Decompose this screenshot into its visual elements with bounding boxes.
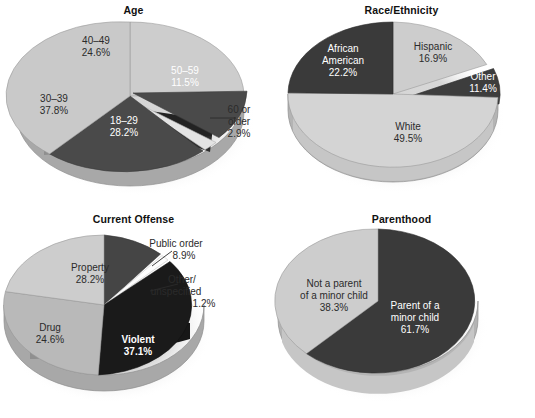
- svg-text:minor child: minor child: [391, 312, 439, 323]
- svg-text:30–39: 30–39: [40, 93, 68, 104]
- svg-text:1.2%: 1.2%: [193, 298, 216, 309]
- svg-text:8.9%: 8.9%: [173, 250, 196, 261]
- pie-chart-current-offense: Property 28.2% Drug 24.6% Violent 37.1% …: [0, 209, 267, 418]
- svg-text:28.2%: 28.2%: [76, 274, 104, 285]
- pie-label-offense-drug: Drug 24.6%: [36, 322, 64, 345]
- pie-label-offense-violent: Violent 37.1%: [121, 334, 155, 357]
- svg-text:Violent: Violent: [121, 334, 155, 345]
- pie-chart-age: 40–49 24.6% 50–59 11.5% 30–39 37.8% 18–2…: [0, 0, 267, 209]
- pie-label-race-white: White 49.5%: [394, 121, 422, 144]
- pie-label-offense-public-order: Public order 8.9%: [149, 238, 203, 261]
- svg-text:11.5%: 11.5%: [171, 77, 199, 88]
- svg-text:Public order: Public order: [149, 238, 203, 249]
- svg-text:of a minor child: of a minor child: [300, 290, 368, 301]
- svg-text:White: White: [395, 121, 421, 132]
- svg-text:Not a parent: Not a parent: [306, 278, 361, 289]
- svg-text:50–59: 50–59: [171, 65, 199, 76]
- svg-text:American: American: [322, 55, 364, 66]
- svg-text:11.4%: 11.4%: [469, 83, 497, 94]
- svg-text:49.5%: 49.5%: [394, 133, 422, 144]
- svg-text:2.9%: 2.9%: [228, 128, 251, 139]
- svg-text:60 or: 60 or: [228, 104, 251, 115]
- svg-text:Other/: Other/: [168, 274, 196, 285]
- svg-text:40–49: 40–49: [82, 35, 110, 46]
- svg-text:unspecified: unspecified: [151, 286, 202, 297]
- pie-chart-race-ethnicity: African American 22.2% Hispanic 16.9% Ot…: [268, 0, 535, 209]
- svg-text:18–29: 18–29: [110, 115, 138, 126]
- pie-label-race-hispanic: Hispanic 16.9%: [414, 41, 452, 64]
- svg-text:24.6%: 24.6%: [82, 47, 110, 58]
- svg-text:37.8%: 37.8%: [40, 105, 68, 116]
- svg-text:older: older: [228, 116, 251, 127]
- svg-text:61.7%: 61.7%: [401, 324, 429, 335]
- pie-label-race-other: Other 11.4%: [469, 71, 497, 94]
- svg-text:Parent of a: Parent of a: [391, 300, 440, 311]
- svg-text:37.1%: 37.1%: [124, 346, 152, 357]
- pie-label-age-60-or-older: 60 or older 2.9%: [228, 104, 251, 139]
- pie-chart-figure: Age: [0, 0, 535, 418]
- pie-label-age-40-49: 40–49 24.6%: [82, 35, 111, 58]
- svg-text:28.2%: 28.2%: [110, 127, 138, 138]
- svg-text:24.6%: 24.6%: [36, 334, 64, 345]
- pie-label-age-30-39: 30–39 37.8%: [40, 93, 69, 116]
- svg-text:Property: Property: [71, 262, 109, 273]
- svg-text:Other: Other: [470, 71, 496, 82]
- svg-text:Hispanic: Hispanic: [414, 41, 452, 52]
- svg-text:Drug: Drug: [39, 322, 61, 333]
- pie-label-age-50-59: 50–59 11.5%: [171, 65, 199, 88]
- chart-panel-age: Age: [0, 0, 267, 209]
- svg-text:African: African: [327, 43, 358, 54]
- chart-panel-parenthood: Parenthood Not a parent of a minor ch: [268, 209, 535, 418]
- chart-panel-current-offense: Current Offense: [0, 209, 267, 418]
- svg-text:22.2%: 22.2%: [329, 67, 357, 78]
- pie-chart-parenthood: Not a parent of a minor child 38.3% Pare…: [268, 209, 535, 418]
- svg-text:16.9%: 16.9%: [419, 53, 447, 64]
- svg-text:38.3%: 38.3%: [320, 302, 348, 313]
- chart-panel-race-ethnicity: Race/Ethnicity African: [268, 0, 535, 209]
- pie-label-age-18-29: 18–29 28.2%: [110, 115, 139, 138]
- pie-label-offense-property: Property 28.2%: [71, 262, 109, 285]
